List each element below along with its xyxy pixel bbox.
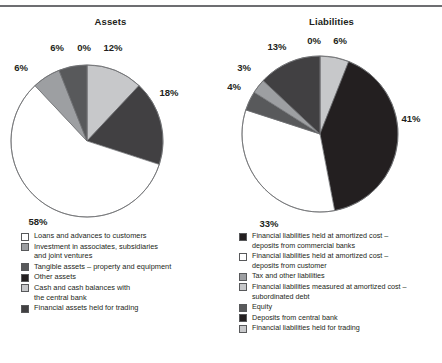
legend-label: Deposits from central bank bbox=[252, 313, 338, 323]
legend-item[interactable]: Investment in associates, subsidiaries a… bbox=[21, 242, 242, 261]
legend-item[interactable]: Financial assets held for trading bbox=[21, 303, 242, 313]
pie-slice-label: 0% bbox=[307, 35, 321, 46]
legend-label: Loans and advances to customers bbox=[34, 231, 147, 241]
assets-pie-svg: 12%18%58%6%6%0% bbox=[0, 29, 221, 229]
legend-label: Investment in associates, subsidiaries a… bbox=[34, 242, 158, 261]
legend-swatch-icon bbox=[21, 305, 29, 313]
legend-item[interactable]: Other assets bbox=[21, 272, 242, 282]
legend-item[interactable]: Loans and advances to customers bbox=[21, 231, 242, 241]
legend-item[interactable]: Tax and other liabilities bbox=[239, 271, 442, 281]
pie-slice-label: 6% bbox=[333, 35, 347, 46]
legend-swatch-icon bbox=[21, 233, 29, 241]
liabilities-pie-svg: 6%41%33%4%3%13%0% bbox=[221, 29, 442, 229]
assets-pie-chart: 12%18%58%6%6%0% bbox=[0, 29, 221, 229]
legend-swatch-icon bbox=[239, 304, 247, 312]
legend-item[interactable]: Cash and cash balances with the central … bbox=[21, 283, 242, 302]
liabilities-pie-chart: 6%41%33%4%3%13%0% bbox=[221, 29, 442, 229]
pie-slice-label: 12% bbox=[103, 42, 123, 53]
legend-swatch-icon bbox=[21, 263, 29, 271]
assets-legend: Loans and advances to customersInvestmen… bbox=[0, 231, 242, 314]
pie-slice-label: 6% bbox=[50, 42, 64, 53]
pie-slice-label: 6% bbox=[14, 62, 28, 73]
legend-label: Tax and other liabilities bbox=[252, 271, 325, 281]
pie-slice-label: 3% bbox=[237, 62, 251, 73]
assets-panel: Assets 12%18%58%6%6%0% Loans and advance… bbox=[0, 7, 221, 363]
legend-swatch-icon bbox=[239, 325, 247, 333]
pie-slice-label: 13% bbox=[267, 41, 287, 52]
liabilities-panel: Liabilities 6%41%33%4%3%13%0% Financial … bbox=[221, 7, 442, 363]
legend-label: Tangible assets – property and equipment bbox=[34, 262, 171, 272]
pie-slice-label: 18% bbox=[159, 87, 179, 98]
legend-label: Financial liabilities held for trading bbox=[252, 323, 360, 333]
legend-label: Financial liabilities held at amortized … bbox=[252, 251, 388, 270]
liabilities-chart-title: Liabilities bbox=[221, 16, 442, 27]
legend-item[interactable]: Deposits from central bank bbox=[239, 313, 442, 323]
pie-slice-label: 41% bbox=[401, 113, 421, 124]
legend-swatch-icon bbox=[21, 284, 29, 292]
legend-label: Financial liabilities measured at amorti… bbox=[252, 282, 407, 301]
legend-item[interactable]: Financial liabilities held at amortized … bbox=[239, 231, 442, 250]
legend-swatch-icon bbox=[239, 233, 247, 241]
legend-label: Other assets bbox=[34, 272, 76, 282]
charts-container: Assets 12%18%58%6%6%0% Loans and advance… bbox=[0, 7, 442, 363]
legend-item[interactable]: Financial liabilities measured at amorti… bbox=[239, 282, 442, 301]
pie-slice-label: 4% bbox=[227, 81, 241, 92]
legend-label: Financial liabilities held at amortized … bbox=[252, 231, 388, 250]
legend-swatch-icon bbox=[21, 274, 29, 282]
liabilities-legend: Financial liabilities held at amortized … bbox=[221, 231, 442, 334]
legend-swatch-icon bbox=[239, 253, 247, 261]
legend-item[interactable]: Financial liabilities held at amortized … bbox=[239, 251, 442, 270]
legend-item[interactable]: Financial liabilities held for trading bbox=[239, 323, 442, 333]
legend-item[interactable]: Tangible assets – property and equipment bbox=[21, 262, 242, 272]
assets-chart-title: Assets bbox=[0, 16, 221, 27]
pie-slice-label: 0% bbox=[77, 42, 91, 53]
pie-slice-label: 58% bbox=[28, 216, 48, 227]
legend-label: Financial assets held for trading bbox=[34, 303, 138, 313]
legend-item[interactable]: Equity bbox=[239, 302, 442, 312]
pie-slice-label: 33% bbox=[259, 218, 279, 229]
legend-swatch-icon bbox=[239, 273, 247, 281]
legend-label: Cash and cash balances with the central … bbox=[34, 283, 130, 302]
legend-swatch-icon bbox=[239, 314, 247, 322]
legend-swatch-icon bbox=[239, 283, 247, 291]
legend-label: Equity bbox=[252, 302, 272, 312]
legend-swatch-icon bbox=[21, 243, 29, 251]
